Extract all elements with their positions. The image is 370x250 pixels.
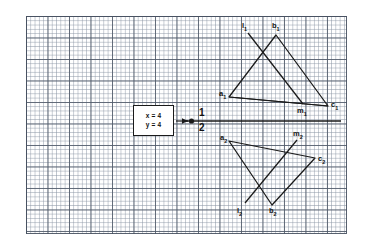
ground-line-point-dot (189, 118, 194, 123)
label-b2: b2 (269, 207, 277, 217)
coordinates-annotation-box: x = 4 y = 4 (133, 105, 174, 136)
label-c2: c2 (318, 155, 325, 165)
label-l1: l1 (242, 22, 247, 32)
label-a2: a2 (220, 134, 227, 144)
label-m1: m1 (297, 107, 307, 117)
annotation-x-value: x = 4 (146, 113, 162, 120)
ground-line-digit-lower: 2 (199, 123, 205, 133)
geometry-figure: x = 4 y = 4 1 2 l1 b1 a1 m1 c1 a2 m2 c2 … (0, 0, 370, 250)
label-b1: b1 (272, 22, 280, 32)
annotation-y-value: y = 4 (146, 122, 162, 129)
drawing-overlay (0, 0, 370, 250)
annotation-pointer-arrowhead (182, 118, 188, 124)
upper-triangle-abc (229, 35, 328, 106)
upper-edge-a1-c1 (229, 97, 328, 106)
label-c1: c1 (331, 101, 338, 111)
upper-line-lm (248, 33, 303, 104)
label-l2: l2 (237, 207, 242, 217)
label-a1: a1 (219, 90, 226, 100)
ground-line-digit-upper: 1 (199, 108, 205, 118)
label-m2: m2 (293, 130, 303, 140)
lower-triangle-abc (229, 141, 315, 205)
